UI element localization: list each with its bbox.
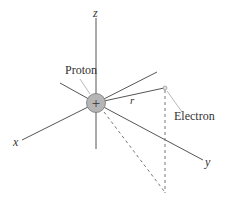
electron-dot xyxy=(163,86,167,90)
z-axis-label: z xyxy=(92,6,98,20)
proton-leader-line xyxy=(80,79,90,94)
dashed-projection-ground xyxy=(104,112,164,191)
y-axis-label: y xyxy=(204,155,211,169)
proton-label: Proton xyxy=(65,63,97,77)
electron-label: Electron xyxy=(174,109,215,123)
x-axis xyxy=(22,103,96,140)
distance-label: r xyxy=(130,94,135,106)
y-axis-negative xyxy=(96,72,157,103)
x-axis-label: x xyxy=(12,135,19,149)
hydrogen-atom-diagram: + Proton Electron r z x y xyxy=(0,0,229,205)
proton-charge-sign: + xyxy=(92,95,100,111)
